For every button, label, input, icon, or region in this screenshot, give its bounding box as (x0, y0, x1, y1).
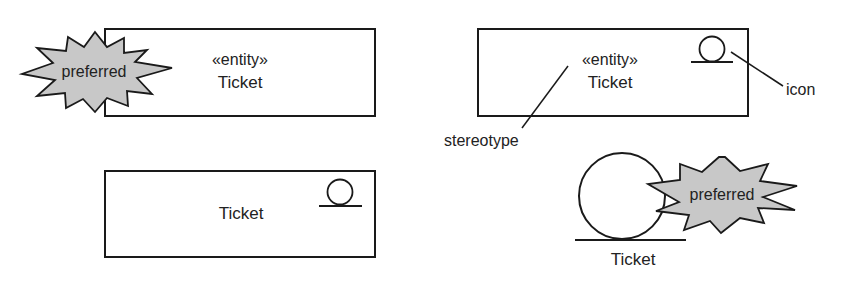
class-box-bottom-left: Ticket (105, 171, 375, 257)
burst-label: preferred (62, 63, 127, 80)
burst-label: preferred (690, 186, 755, 203)
icon-callout-label: icon (786, 81, 815, 98)
class-name: Ticket (219, 204, 264, 223)
stereotype-label: «entity» (212, 51, 268, 68)
preferred-burst-bottom-right: preferred (648, 157, 797, 233)
uml-diagram-canvas: «entity» Ticket preferred «entity» Ticke… (0, 0, 849, 282)
class-name: Ticket (611, 250, 656, 269)
class-name: Ticket (218, 73, 263, 92)
stereotype-label: «entity» (582, 51, 638, 68)
class-box-top-right: «entity» Ticket icon stereotype (444, 29, 815, 149)
class-name: Ticket (588, 73, 633, 92)
stereotype-callout-label: stereotype (444, 132, 519, 149)
